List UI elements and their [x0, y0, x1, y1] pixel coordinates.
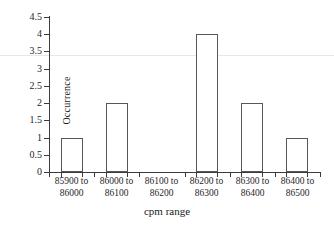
y-axis-tick-label: 1: [2, 133, 42, 143]
x-axis-boundary-tick: [320, 172, 321, 177]
x-axis-category-label-line1: 86400 to: [275, 176, 320, 188]
x-axis-category-label-line2: 86500: [275, 188, 320, 200]
bar: [106, 103, 128, 172]
x-axis-title: cpm range: [0, 205, 334, 217]
y-axis-tick: [44, 34, 49, 35]
x-axis-category-label: 86100 to86200: [139, 176, 184, 199]
x-axis-category-label-line1: 86100 to: [139, 176, 184, 188]
x-axis-category-label-line2: 86300: [184, 188, 229, 200]
x-axis-category-label: 86300 to86400: [230, 176, 275, 199]
y-axis-tick-label: 4.5: [2, 12, 42, 22]
bar: [196, 34, 218, 172]
x-axis-category-label-line1: 85900 to: [49, 176, 94, 188]
y-axis-tick: [44, 69, 49, 70]
y-axis-tick-label: 1.5: [2, 115, 42, 125]
x-axis-category-label-line1: 86300 to: [230, 176, 275, 188]
y-axis-tick-label: 4: [2, 29, 42, 39]
y-axis-tick-label: 0: [2, 167, 42, 177]
x-axis-category-label-line2: 86000: [49, 188, 94, 200]
histogram-chart: Occurrence 00.511.522.533.544.5 85900 to…: [0, 0, 334, 229]
x-axis-category-label: 86400 to86500: [275, 176, 320, 199]
bar: [241, 103, 263, 172]
y-axis-tick-label: 3.5: [2, 46, 42, 56]
y-axis-tick-label: 0.5: [2, 150, 42, 160]
x-axis-category-label-line2: 86100: [94, 188, 139, 200]
y-axis-tick: [44, 17, 49, 18]
plot-area: Occurrence: [49, 17, 320, 172]
y-axis-title: Occurrence: [61, 56, 72, 146]
x-axis-category-label-line2: 86400: [230, 188, 275, 200]
bar: [61, 138, 83, 172]
bar: [286, 138, 308, 172]
x-axis-category-label-line1: 86200 to: [184, 176, 229, 188]
y-axis-tick: [44, 155, 49, 156]
x-axis-category-label: 85900 to86000: [49, 176, 94, 199]
x-axis-category-label: 86200 to86300: [184, 176, 229, 199]
y-axis-tick-label: 2.5: [2, 81, 42, 91]
x-axis-category-label-line1: 86000 to: [94, 176, 139, 188]
y-axis-tick: [44, 138, 49, 139]
x-axis-category-label: 86000 to86100: [94, 176, 139, 199]
y-axis-tick-label: 2: [2, 98, 42, 108]
y-axis-tick: [44, 103, 49, 104]
y-axis-tick: [44, 120, 49, 121]
y-axis-tick-label: 3: [2, 64, 42, 74]
y-axis-tick: [44, 86, 49, 87]
y-axis-tick: [44, 51, 49, 52]
x-axis-category-label-line2: 86200: [139, 188, 184, 200]
